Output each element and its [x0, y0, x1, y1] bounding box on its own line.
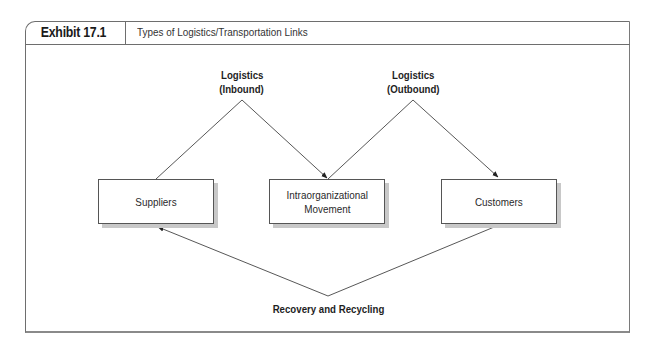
node-customers-label: Customers — [475, 195, 523, 209]
label-recovery-recycling: Recovery and Recycling — [258, 302, 398, 316]
label-logistics-inbound: Logistics (Inbound) — [202, 68, 282, 96]
outbound-edge-up — [328, 100, 413, 179]
recovery-edge-down — [328, 225, 499, 296]
outbound-edge-down — [413, 100, 498, 177]
node-intraorganizational-movement: Intraorganizational Movement — [269, 179, 385, 224]
inbound-edge-up — [156, 100, 242, 179]
node-suppliers-label: Suppliers — [135, 195, 176, 209]
recovery-edge-up — [158, 227, 328, 296]
label-logistics-outbound: Logistics (Outbound) — [373, 68, 453, 96]
inbound-edge-down — [242, 100, 327, 178]
diagram-connectors — [0, 0, 662, 351]
node-intra-label-line2: Movement — [286, 202, 367, 216]
node-intra-label-line1: Intraorganizational — [286, 188, 367, 202]
node-customers: Customers — [441, 179, 557, 224]
node-suppliers: Suppliers — [98, 179, 214, 224]
